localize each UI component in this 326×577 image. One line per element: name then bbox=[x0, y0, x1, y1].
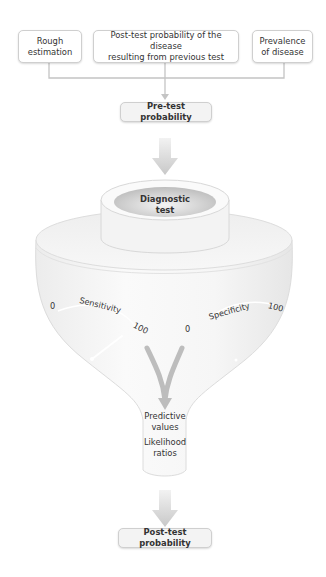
sensitivity-min: 0 bbox=[50, 301, 55, 311]
down-arrow-icon bbox=[152, 490, 178, 527]
connector-lines bbox=[49, 62, 284, 96]
predictive-values-label: values bbox=[130, 422, 200, 433]
pretest-probability-box: Pre-test probability bbox=[120, 102, 212, 122]
box-text: resulting from previous test bbox=[94, 52, 238, 63]
box-text: Rough bbox=[28, 36, 72, 47]
diagnostic-test-label: Diagnostic test bbox=[125, 194, 205, 216]
likelihood-ratios-label: Likelihood bbox=[130, 437, 200, 448]
likelihood-ratios-label: ratios bbox=[130, 448, 200, 459]
box-text: estimation bbox=[28, 47, 72, 58]
specificity-min: 0 bbox=[185, 324, 190, 334]
prevalence-box: Prevalenceof disease bbox=[252, 30, 313, 63]
box-text: Post-test probability of the disease bbox=[94, 30, 238, 52]
box-text: of disease bbox=[260, 47, 306, 58]
posttest-label: Post-test probability bbox=[119, 527, 211, 549]
diagnostic-line: Diagnostic bbox=[125, 194, 205, 205]
funnel-outputs: Predictive values Likelihood ratios bbox=[130, 411, 200, 459]
box-text: Prevalence bbox=[260, 36, 306, 47]
rough-estimation-box: Roughestimation bbox=[18, 30, 82, 63]
funnel-graphic bbox=[0, 0, 326, 577]
down-arrow-icon bbox=[152, 138, 178, 175]
previous-test-box: Post-test probability of the diseaseresu… bbox=[93, 30, 239, 63]
posttest-probability-box: Post-test probability bbox=[118, 528, 212, 548]
predictive-values-label: Predictive bbox=[130, 411, 200, 422]
pretest-label: Pre-test probability bbox=[121, 101, 211, 123]
diagnostic-line: test bbox=[125, 205, 205, 216]
connector-arrowhead bbox=[161, 94, 169, 100]
